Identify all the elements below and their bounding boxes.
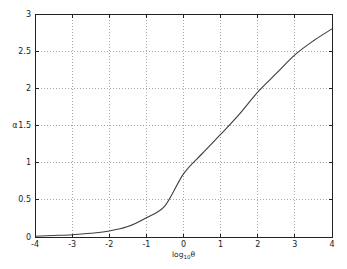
x-tick-label: -3 xyxy=(68,240,76,249)
y-axis-label: α xyxy=(12,121,17,130)
x-axis-label: log10θ xyxy=(172,250,195,260)
x-tick-label: -1 xyxy=(142,240,150,249)
y-tick-label: 0 xyxy=(26,233,31,242)
matlab-figure: -4-3-2-10123400.511.522.53log10θα xyxy=(0,0,347,269)
y-tick-label: 3 xyxy=(26,10,31,19)
x-tick-label: 0 xyxy=(181,240,186,249)
y-tick-label: 0.5 xyxy=(18,195,31,204)
x-tick-label: -2 xyxy=(105,240,113,249)
x-tick-label: 3 xyxy=(292,240,297,249)
y-tick-label: 2.5 xyxy=(18,47,31,56)
x-tick-label: 4 xyxy=(329,240,334,249)
x-axis-label-prefix: log xyxy=(172,250,184,259)
x-axis-label-argument: θ xyxy=(190,250,195,259)
y-tick-label: 1.5 xyxy=(18,121,31,130)
x-tick-label: 1 xyxy=(218,240,223,249)
alpha-vs-logtheta-chart: -4-3-2-10123400.511.522.53log10θα xyxy=(0,0,347,269)
x-tick-label: 2 xyxy=(255,240,260,249)
x-tick-label: -4 xyxy=(31,240,39,249)
y-tick-label: 2 xyxy=(26,84,31,93)
y-tick-label: 1 xyxy=(26,158,31,167)
